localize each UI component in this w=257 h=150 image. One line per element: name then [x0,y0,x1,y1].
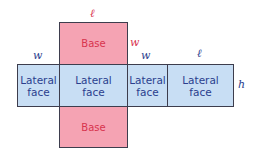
lateral-face-3-line2: face [136,86,158,98]
lateral-face-2-line2: face [82,86,104,98]
lateral-face-1-line1: Lateral [20,74,57,86]
top-base-face: Base [59,22,128,65]
lateral-face-2-label: Lateral face [75,74,112,98]
lateral-face-3-label: Lateral face [129,74,166,98]
bottom-base-face: Base [59,106,128,148]
height-label: h [238,79,245,90]
lateral-face-1: Lateral face [17,64,60,107]
lateral-face-1-line2: face [27,86,49,98]
top-base-label: Base [81,38,105,49]
width-label-base: w [130,37,139,48]
lateral-face-2-line1: Lateral [75,74,112,86]
lateral-face-4-line2: face [189,86,211,98]
lateral-face-3-line1: Lateral [129,74,166,86]
width-label-face-3: w [141,50,150,61]
lateral-face-4-line1: Lateral [182,74,219,86]
lateral-face-1-label: Lateral face [20,74,57,98]
lateral-face-2: Lateral face [59,64,128,107]
bottom-base-label: Base [81,122,105,133]
width-label-face-1: w [33,50,42,61]
length-label-top: ℓ [90,8,95,19]
length-label-face-4: ℓ [197,48,202,59]
lateral-face-3: Lateral face [127,64,168,107]
lateral-face-4: Lateral face [167,64,234,107]
lateral-face-4-label: Lateral face [182,74,219,98]
